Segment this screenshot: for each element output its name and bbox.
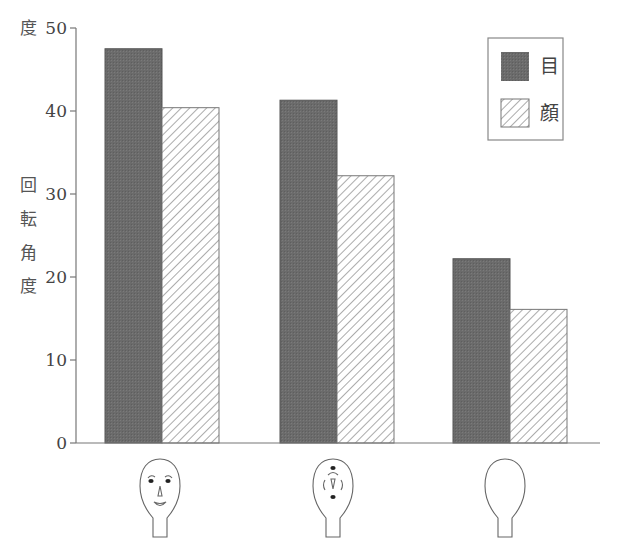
y-axis-label-char: 回 — [20, 175, 37, 195]
bar-face-blank-face — [510, 309, 567, 443]
bar-face-normal-face — [162, 108, 219, 443]
bar-eyes-scrambled-face — [280, 100, 337, 443]
y-tick-label: 50 — [45, 18, 67, 38]
bar-chart: 度 回 転 角 度 50 40 30 20 10 0 目 顔 — [0, 0, 620, 550]
y-tick-label: 40 — [45, 101, 67, 121]
legend-swatch-eyes — [501, 52, 529, 81]
bar-eyes-normal-face — [105, 49, 162, 443]
y-axis-unit-label: 度 — [20, 18, 37, 38]
blank-face-icon — [485, 459, 525, 537]
y-axis-label-char: 度 — [20, 276, 37, 296]
y-axis-ticks: 50 40 30 20 10 0 — [45, 18, 67, 453]
y-tick-label: 30 — [45, 184, 67, 204]
legend-swatch-face — [501, 99, 529, 127]
y-axis — [70, 28, 76, 443]
y-tick-label: 0 — [56, 433, 67, 453]
legend: 目 顔 — [488, 38, 563, 140]
y-axis-label-char: 転 — [20, 209, 37, 229]
bar-eyes-blank-face — [453, 259, 510, 443]
legend-label-eyes: 目 — [540, 55, 559, 77]
normal-face-icon — [140, 459, 180, 537]
y-tick-label: 10 — [45, 350, 67, 370]
y-axis-label-char: 角 — [20, 243, 37, 263]
scrambled-face-icon — [313, 459, 353, 537]
legend-label-face: 顔 — [540, 102, 559, 124]
y-axis-label: 回 転 角 度 — [20, 175, 37, 296]
bar-face-scrambled-face — [337, 176, 394, 443]
y-tick-label: 20 — [45, 267, 67, 287]
